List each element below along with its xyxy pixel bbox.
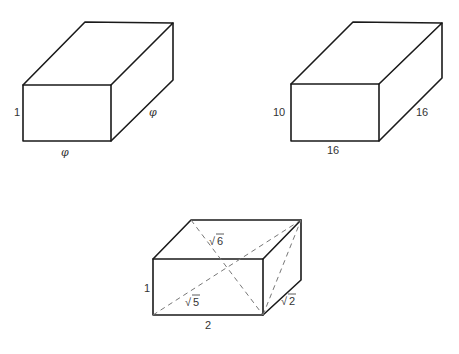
- top-face: [291, 22, 442, 84]
- width-label: φ: [61, 146, 69, 159]
- height-label: 1: [14, 106, 20, 118]
- front-diagonal-label: √ 5: [185, 295, 200, 308]
- width-label: 16: [327, 144, 339, 156]
- front-diagonal-radicand: 5: [193, 296, 199, 308]
- space-diagonal-line: [191, 220, 263, 315]
- height-label: 1: [144, 282, 150, 294]
- front-face: [153, 259, 263, 315]
- radical-sign: √: [209, 235, 216, 247]
- depth-label: φ: [149, 106, 157, 119]
- radical-sign: √: [185, 296, 192, 308]
- height-label: 10: [273, 106, 285, 118]
- figure-golden-box: 1 φ φ: [14, 22, 173, 159]
- figure-box-diagonals: 1 2 √ 6 √ 5 √ 2: [144, 220, 301, 331]
- radical-sign: √: [281, 295, 288, 307]
- front-face: [291, 84, 379, 141]
- figure-box-10-16-16: 10 16 16: [273, 22, 442, 156]
- top-face: [23, 22, 173, 85]
- space-diagonal-label: √ 6: [209, 234, 224, 247]
- depth-label: 16: [416, 106, 428, 118]
- side-diagonal-radicand: 2: [289, 295, 295, 307]
- top-face: [153, 220, 301, 259]
- side-face: [111, 23, 173, 141]
- width-label: 2: [205, 319, 211, 331]
- figure-canvas: 1 φ φ 10 16 16 1 2 √ 6 √ 5 √: [0, 0, 459, 354]
- side-diagonal-label: √ 2: [281, 294, 296, 307]
- front-face: [23, 85, 111, 141]
- space-diagonal-radicand: 6: [217, 235, 223, 247]
- side-face: [379, 23, 442, 141]
